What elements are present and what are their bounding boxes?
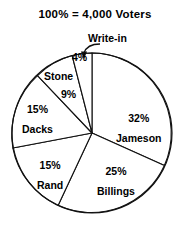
pie-label-rand: 15% Rand <box>37 160 63 191</box>
pie-label-billings-percent: 25% <box>97 166 135 177</box>
pie-label-billings: 25% Billings <box>97 166 135 197</box>
pie-label-jameson-name: Jameson <box>116 133 162 144</box>
pie-label-dacks: 15% Dacks <box>22 104 53 135</box>
pie-label-stone-name: Stone <box>44 71 73 82</box>
pie-chart-figure: 100% = 4,000 Voters 32% Jameson 25% Bill… <box>0 0 190 233</box>
pie-label-dacks-percent: 15% <box>22 104 53 115</box>
pie-label-rand-name: Rand <box>37 180 63 191</box>
pie-label-writein-name: Write-in <box>88 33 127 44</box>
pie-label-jameson-percent: 32% <box>116 113 162 124</box>
pie-label-billings-name: Billings <box>97 186 135 197</box>
pie-label-rand-percent: 15% <box>37 160 63 171</box>
pie-label-jameson: 32% Jameson <box>116 113 162 144</box>
pie-label-stone-percent: 9% <box>61 89 76 100</box>
pie-label-dacks-name: Dacks <box>22 124 53 135</box>
pie-label-writein-percent: 4% <box>72 52 87 63</box>
